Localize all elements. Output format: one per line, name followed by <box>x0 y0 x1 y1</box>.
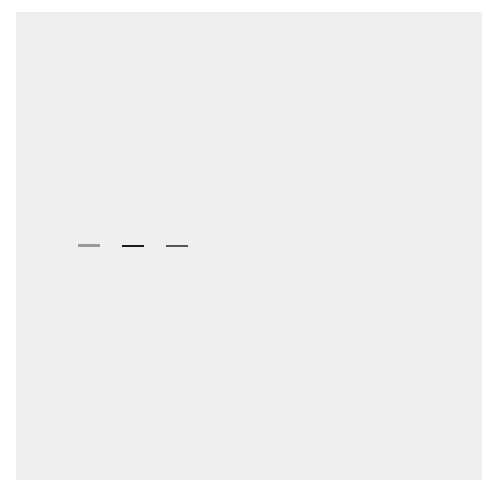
bottom-line-chart <box>0 0 495 492</box>
